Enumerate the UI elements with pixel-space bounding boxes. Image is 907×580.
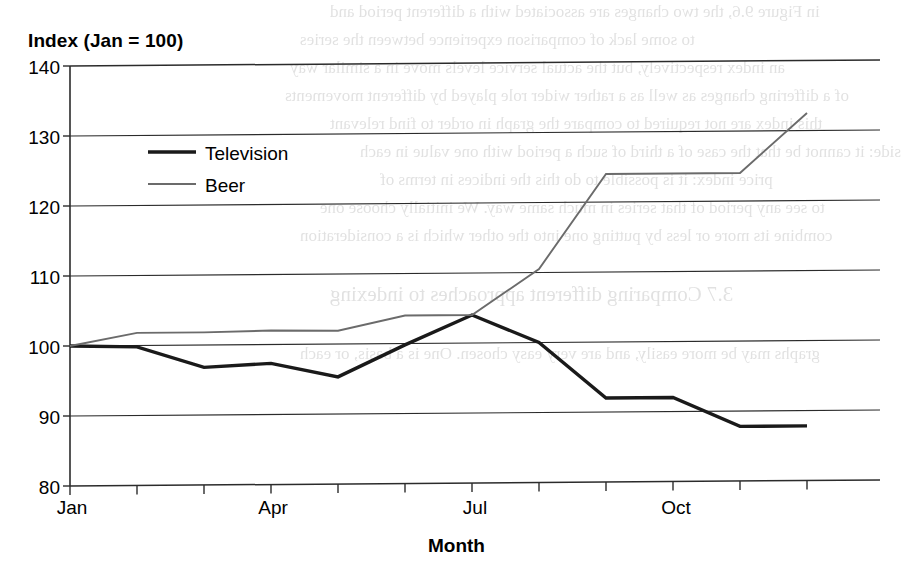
line-chart: Index (Jan = 100) 140 130 120 110 100 90… [0,0,907,580]
x-axis-title: Month [428,535,485,557]
axis-frame [63,66,70,486]
gridline [70,60,880,66]
x-tick-label-oct: Oct [661,497,691,519]
gridline [70,340,880,346]
legend-label-beer: Beer [205,175,245,197]
y-tick-label: 140 [14,58,60,77]
x-tick-label-jan: Jan [57,497,88,519]
gridlines [70,60,880,486]
gridline [70,130,880,136]
x-tick-label-jul: Jul [463,497,487,519]
y-tick-label: 110 [14,268,60,287]
y-tick-label: 80 [14,478,60,497]
legend-label-television: Television [205,143,288,165]
y-tick-label: 130 [14,128,60,147]
y-tick-label: 90 [14,408,60,427]
y-tick-label: 100 [14,338,60,357]
y-tick-label: 120 [14,198,60,217]
x-axis-title-wrap: Month [0,535,907,557]
y-axis-tick-labels: 140 130 120 110 100 90 80 [8,0,60,580]
gridline [70,480,880,486]
gridline [70,270,880,276]
gridline [70,200,880,206]
data-series-group [70,113,807,426]
legend-swatches [148,152,196,184]
series-line-beer [70,113,807,346]
plot-area [0,0,907,580]
x-tick-label-apr: Apr [258,497,288,519]
gridline [70,410,880,416]
